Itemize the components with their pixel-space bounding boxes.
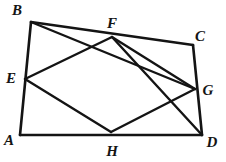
outer-quadrilateral-group [20, 22, 202, 135]
vertex-label-c: C [195, 29, 205, 44]
geometry-figure: ABCDEFGH [0, 0, 226, 162]
vertex-label-a: A [4, 133, 14, 148]
segment-HE [25, 79, 111, 132]
segment-BG [31, 22, 195, 89]
segment-AB [20, 22, 31, 135]
vertex-label-h: H [106, 144, 118, 159]
vertex-label-b: B [12, 3, 22, 18]
vertex-label-e: E [6, 71, 16, 86]
vertex-label-f: F [107, 16, 117, 31]
segment-GH [111, 89, 195, 132]
vertex-label-d: D [207, 135, 218, 150]
vertex-label-g: G [203, 83, 214, 98]
inner-quadrilateral-group [25, 37, 195, 132]
segment-EF [25, 37, 112, 79]
